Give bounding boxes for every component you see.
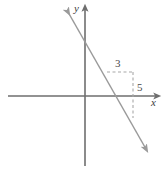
plotted-line	[68, 12, 146, 149]
slope-rise-label: 5	[137, 82, 143, 93]
y-axis-label: y	[74, 3, 79, 14]
graph-figure: y x 3 5	[0, 0, 164, 174]
x-axis-label: x	[151, 97, 156, 108]
slope-run-label: 3	[115, 58, 121, 69]
